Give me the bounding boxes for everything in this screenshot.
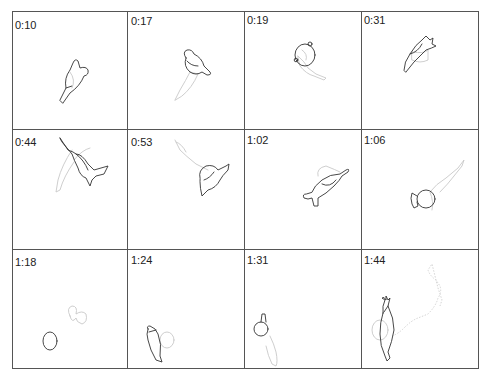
panel-0-17: 0:17 [131,15,211,100]
panel-1-24: 1:24 [131,254,174,362]
timestamp-label: 0:17 [131,15,152,27]
timestamp-label: 1:06 [364,134,385,146]
panel-grid [12,11,478,368]
cell-outline [411,160,464,210]
panel-1-06: 1:06 [364,134,464,210]
cell-outline [404,36,436,72]
panel-1-02: 1:02 [247,134,349,206]
cell-outline [254,314,277,366]
cell-outline [294,42,326,80]
timestamp-label: 0:53 [131,136,152,148]
cell-outline [147,326,174,362]
timestamp-label: 0:31 [364,14,385,26]
panel-1-44: 1:44 [364,254,442,361]
timestamp-label: 0:44 [15,136,36,148]
cell-outline [43,306,87,350]
grid-border [12,11,478,368]
timestamp-label: 1:31 [247,254,268,266]
timestamp-label: 0:19 [247,14,268,26]
timestamp-label: 0:10 [15,19,36,31]
cell-outline [60,60,88,103]
panel-0-53: 0:53 [131,136,229,196]
panel-0-19: 0:19 [247,14,326,80]
cell-outline [372,264,442,361]
panel-1-18: 1:18 [15,256,87,350]
timestamp-label: 1:18 [15,256,36,268]
panel-0-10: 0:10 [15,19,88,103]
panel-1-31: 1:31 [247,254,277,366]
cell-outline [303,166,348,206]
panel-0-44: 0:44 [15,136,108,192]
panel-0-31: 0:31 [364,14,436,72]
time-lapse-figure: 0:10 0:17 0:19 0:31 [0,0,489,379]
cell-outline [175,50,211,100]
timestamp-label: 1:24 [131,254,152,266]
timestamp-label: 1:02 [247,134,268,146]
timestamp-label: 1:44 [364,254,385,266]
cell-outline [56,138,108,192]
cell-outline [175,140,229,196]
